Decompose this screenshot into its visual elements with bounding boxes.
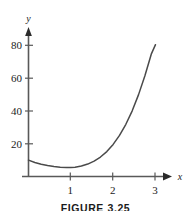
graph-plot-area: 80 60 40 20 1 2 3 y x (0, 0, 191, 211)
y-tick-label-20: 20 (11, 138, 23, 150)
figure-container: 80 60 40 20 1 2 3 y x FIGURE 3.25 (0, 0, 191, 211)
x-axis-arrowhead (163, 173, 172, 181)
x-tick-label-1: 1 (68, 184, 74, 196)
y-tick-label-80: 80 (11, 39, 23, 51)
y-tick-label-40: 40 (11, 105, 23, 117)
x-axis-label: x (177, 171, 183, 182)
y-axis-arrowhead (25, 27, 32, 36)
x-tick-label-2: 2 (110, 184, 116, 196)
curve-line (29, 45, 156, 168)
y-tick-label-60: 60 (11, 72, 23, 84)
x-tick-label-3: 3 (152, 184, 158, 196)
y-axis-label: y (25, 13, 31, 24)
figure-caption: FIGURE 3.25 (0, 202, 191, 211)
